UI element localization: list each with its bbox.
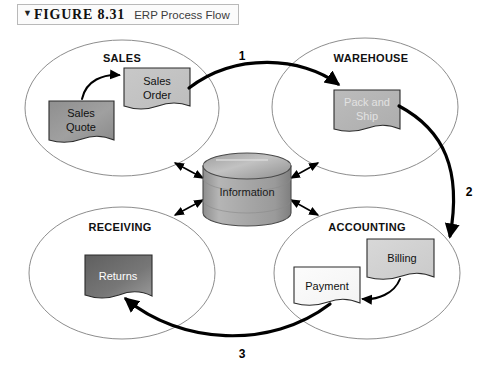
zone-warehouse-label: WAREHOUSE (334, 52, 409, 64)
db-link-accounting-arrow (291, 200, 318, 215)
erp-process-flow-diagram: SALES WAREHOUSE RECEIVING ACCOUNTING (0, 0, 493, 370)
sales-quote-label-line2: Quote (66, 121, 96, 133)
db-link-sales-arrow (175, 163, 203, 178)
sales-quote-label-line1: Sales (67, 107, 95, 119)
document-payment[interactable]: Payment (294, 267, 360, 305)
document-pack-and-ship[interactable]: Pack and Ship (334, 90, 400, 131)
billing-label: Billing (387, 252, 416, 264)
step-2-label: 2 (466, 185, 473, 199)
payment-label: Payment (305, 280, 348, 292)
document-sales-quote[interactable]: Sales Quote (49, 101, 114, 142)
flow-billing-to-payment (363, 279, 400, 299)
database-label: Information (219, 186, 274, 198)
database-top (203, 153, 291, 179)
flow-step-2 (399, 106, 454, 236)
information-database[interactable]: Information (203, 153, 291, 226)
pack-and-ship-label-line1: Pack and (344, 96, 390, 108)
zone-receiving-label: RECEIVING (88, 221, 151, 233)
step-1-label: 1 (239, 49, 246, 63)
step-3-label: 3 (239, 347, 246, 361)
db-link-warehouse-arrow (291, 163, 318, 178)
db-link-receiving-arrow (175, 200, 203, 215)
flow-quote-to-order (82, 75, 119, 99)
figure-container: ▼ FIGURE 8.31 ERP Process Flow (0, 0, 493, 370)
flow-step-1 (189, 62, 338, 88)
document-sales-order[interactable]: Sales Order (124, 68, 190, 109)
zone-sales-label: SALES (103, 52, 141, 64)
document-billing[interactable]: Billing (367, 239, 434, 279)
document-returns[interactable]: Returns (85, 255, 152, 298)
pack-and-ship-label-line2: Ship (356, 110, 378, 122)
returns-label: Returns (99, 270, 138, 282)
sales-order-label-line1: Sales (143, 75, 171, 87)
sales-order-label-line2: Order (143, 89, 171, 101)
zone-accounting-label: ACCOUNTING (328, 221, 406, 233)
